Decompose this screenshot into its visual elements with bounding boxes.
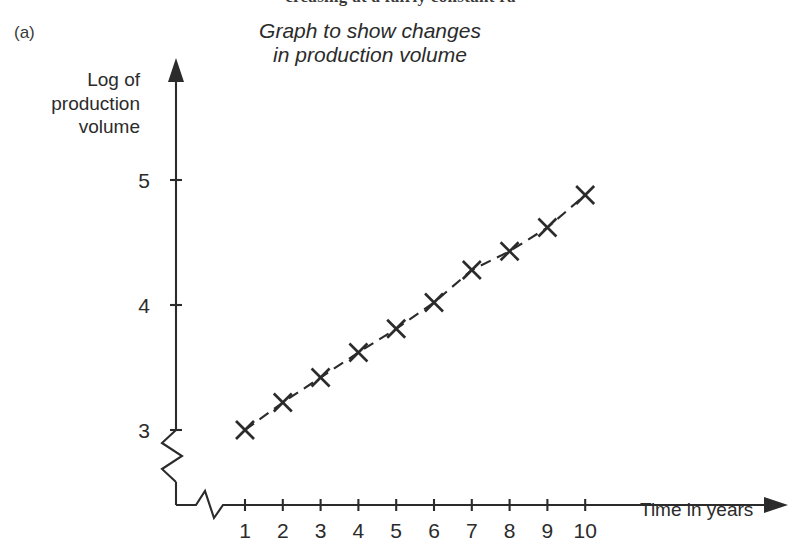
data-series-line [245,195,585,430]
x-tick-label: 4 [353,519,365,542]
data-point-marker [312,369,330,387]
axes-group [162,58,788,518]
y-axis-break-icon [162,430,182,482]
x-tick-label: 10 [574,519,597,542]
y-tick-label: 4 [138,294,150,317]
x-tick-label: 2 [277,519,289,542]
data-point-marker [463,261,481,279]
data-point-marker [349,344,367,362]
y-tick-label: 3 [138,419,150,442]
y-axis-arrow-icon [168,58,184,82]
data-point-marker [425,294,443,312]
x-tick-label: 1 [239,519,251,542]
data-point-marker [501,242,519,260]
chart-plot-area: 345 12345678910 [0,0,801,556]
x-tick-label: 9 [542,519,554,542]
x-axis-arrow-icon [764,497,788,513]
x-tick-label: 5 [390,519,402,542]
y-tick-label: 5 [138,169,150,192]
data-point-marker [274,394,292,412]
data-point-marker [236,421,254,439]
x-tick-label: 3 [315,519,327,542]
data-point-marker [538,219,556,237]
x-tick-label: 7 [466,519,478,542]
data-point-marker [576,186,594,204]
x-tick-label: 6 [428,519,440,542]
x-tick-label: 8 [504,519,516,542]
data-point-markers [236,186,594,439]
data-point-marker [387,320,405,338]
x-axis-break-icon [176,491,239,518]
